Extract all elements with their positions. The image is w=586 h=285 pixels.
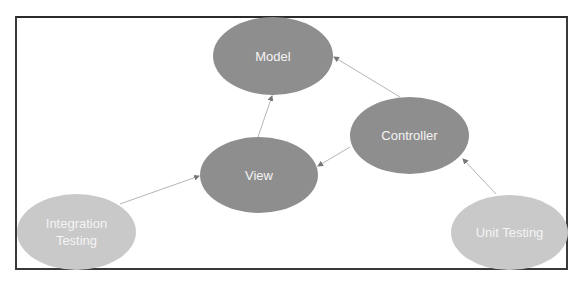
node-integration-testing-label-line2: Testing <box>56 232 97 249</box>
node-integration-testing: Integration Testing <box>17 194 136 270</box>
node-model: Model <box>213 17 333 95</box>
node-controller: Controller <box>350 97 469 174</box>
node-unit-testing: Unit Testing <box>451 195 568 270</box>
node-unit-testing-label: Unit Testing <box>476 224 544 241</box>
node-view-label: View <box>245 167 273 184</box>
node-controller-label: Controller <box>381 127 437 144</box>
edge-unit-to-controller <box>463 159 496 194</box>
node-model-label: Model <box>255 48 290 65</box>
edge-controller-to-model <box>334 57 400 97</box>
edge-integration-to-view <box>120 176 199 204</box>
node-integration-testing-label-line1: Integration <box>46 215 107 232</box>
edge-controller-to-view <box>318 147 350 166</box>
node-view: View <box>200 137 318 213</box>
edge-view-to-model <box>258 96 272 137</box>
